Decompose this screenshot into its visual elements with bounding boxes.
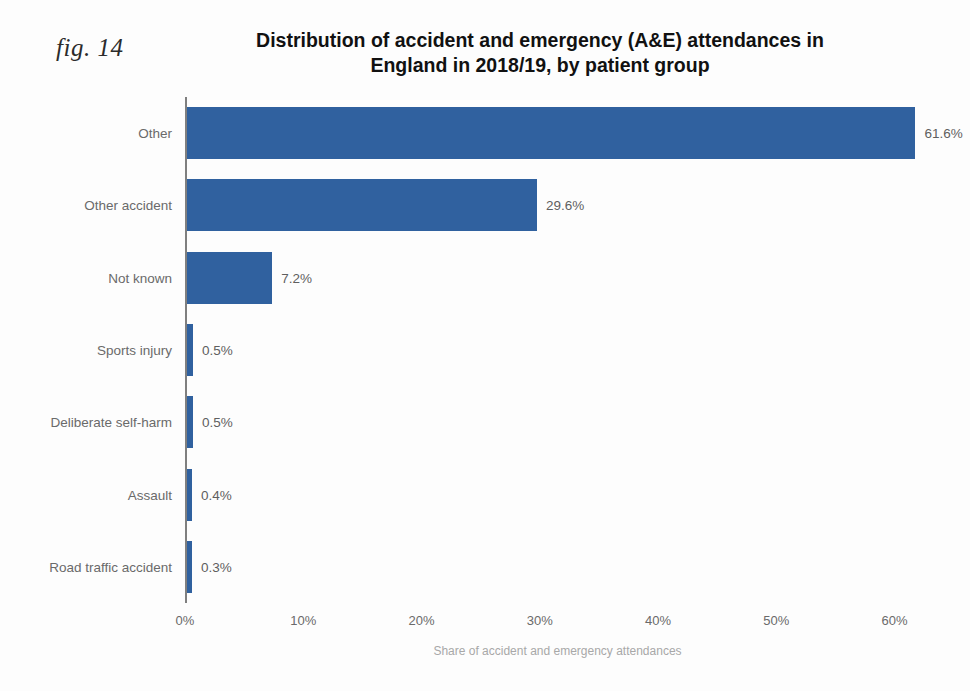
bar-row: 0.3% [187,541,192,593]
bar-value-label: 0.5% [193,343,233,358]
x-tick-label: 10% [290,613,316,628]
x-tick-label: 20% [408,613,434,628]
bar [187,107,915,159]
bar-value-label: 0.5% [193,415,233,430]
chart-title-line-1: Distribution of accident and emergency (… [150,28,930,53]
bar-value-label: 61.6% [915,126,962,141]
bar-value-label: 29.6% [537,198,584,213]
bar-value-label: 0.3% [192,559,232,574]
x-tick-label: 50% [763,613,789,628]
category-label-deliberate-self-harm: Deliberate self-harm [50,415,172,430]
x-tick-label: 30% [527,613,553,628]
bar-value-label: 0.4% [192,487,232,502]
bar-value-label: 7.2% [272,270,312,285]
bar-row: 29.6% [187,179,537,231]
chart-title: Distribution of accident and emergency (… [150,28,930,78]
plot-area: 61.6%29.6%7.2%0.5%0.5%0.4%0.3% [185,97,930,603]
bar-row: 0.5% [187,324,193,376]
x-tick-label: 40% [645,613,671,628]
category-label-road-traffic-accident: Road traffic accident [49,559,172,574]
chart-title-line-2: England in 2018/19, by patient group [150,53,930,78]
bar [187,179,537,231]
x-tick-label: 0% [176,613,195,628]
x-axis-ticks: 0%10%20%30%40%50%60% [185,603,930,633]
bar-row: 7.2% [187,252,272,304]
category-label-not-known: Not known [108,270,172,285]
figure-container: fig. 14 Distribution of accident and eme… [0,0,970,691]
category-label-assault: Assault [128,487,172,502]
bar-row: 61.6% [187,107,915,159]
category-label-sports-injury: Sports injury [97,343,172,358]
bar-row: 0.5% [187,396,193,448]
bar-row: 0.4% [187,469,192,521]
x-tick-label: 60% [882,613,908,628]
category-label-other-accident: Other accident [84,198,172,213]
figure-number-label: fig. 14 [56,34,123,62]
category-axis-labels: OtherOther accidentNot knownSports injur… [0,97,172,603]
bar [187,252,272,304]
x-axis-title: Share of accident and emergency attendan… [185,644,930,658]
category-label-other: Other [138,126,172,141]
